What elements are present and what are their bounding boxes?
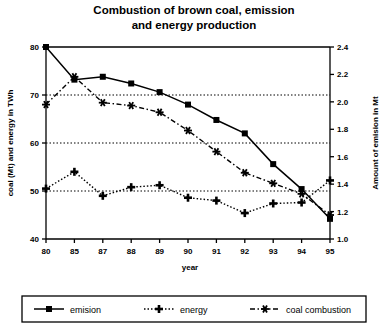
y-ticklabel-left-50: 50 — [30, 187, 39, 196]
y-ticklabel-right-1.6: 1.6 — [337, 153, 349, 162]
datapoint-0-3-square — [128, 80, 134, 86]
legend-marker-0 — [46, 306, 52, 312]
legend-marker-0-square — [46, 306, 52, 312]
legend-marker-1-v — [158, 305, 161, 313]
y-ticklabel-right-1.2: 1.2 — [337, 208, 349, 217]
datapoint-1-1 — [70, 168, 78, 176]
datapoint-1-5 — [184, 194, 192, 202]
y-ticklabel-right-2.2: 2.2 — [337, 70, 349, 79]
datapoint-0-4 — [157, 89, 163, 95]
datapoint-2-2 — [99, 99, 107, 107]
x-axis-label: year — [182, 263, 198, 272]
x-ticklabel-87: 87 — [98, 247, 107, 256]
y-ticklabel-left-70: 70 — [30, 91, 39, 100]
datapoint-1-4-v — [158, 181, 161, 189]
datapoint-0-5 — [185, 102, 191, 108]
chart-title-line1: Combustion of brown coal, emission — [93, 4, 294, 16]
datapoint-0-7-square — [242, 130, 248, 136]
datapoint-2-3 — [127, 102, 135, 110]
chart-container: Combustion of brown coal, emissionand en… — [0, 0, 388, 333]
legend-label-0: emision — [70, 305, 101, 315]
datapoint-1-9-v — [300, 199, 303, 207]
x-ticklabel-94: 94 — [297, 247, 306, 256]
combustion-line-chart: Combustion of brown coal, emissionand en… — [0, 0, 388, 333]
y-axis-label-left: coal (Mt) and energy in TWh — [6, 90, 15, 197]
datapoint-2-7 — [241, 169, 249, 177]
x-ticklabel-88: 88 — [127, 247, 136, 256]
y-ticklabel-left-40: 40 — [30, 235, 39, 244]
datapoint-1-0-v — [45, 185, 48, 193]
datapoint-0-4-square — [157, 89, 163, 95]
datapoint-0-0-square — [43, 44, 49, 50]
y-ticklabel-right-1.0: 1.0 — [337, 235, 349, 244]
datapoint-0-3 — [128, 80, 134, 86]
datapoint-1-5-v — [187, 194, 190, 202]
datapoint-1-2-v — [102, 192, 105, 200]
x-ticklabel-91: 91 — [212, 247, 221, 256]
x-ticklabel-80: 80 — [42, 247, 51, 256]
datapoint-0-2-square — [100, 74, 106, 80]
series-line-1 — [46, 172, 330, 213]
datapoint-1-6 — [212, 197, 220, 205]
datapoint-1-2 — [99, 192, 107, 200]
datapoint-0-6-square — [213, 117, 219, 123]
x-ticklabel-89: 89 — [155, 247, 164, 256]
legend-label-2: coal combustion — [286, 305, 351, 315]
datapoint-0-8-square — [270, 161, 276, 167]
x-ticklabel-90: 90 — [184, 247, 193, 256]
datapoint-1-8 — [269, 199, 277, 207]
datapoint-1-8-v — [272, 199, 275, 207]
y-ticklabel-right-2.0: 2.0 — [337, 98, 349, 107]
datapoint-0-7 — [242, 130, 248, 136]
datapoint-1-6-v — [215, 197, 218, 205]
datapoint-1-3 — [127, 183, 135, 191]
datapoint-2-4 — [156, 108, 164, 116]
y-ticklabel-right-2.4: 2.4 — [337, 43, 349, 52]
datapoint-1-4 — [156, 181, 164, 189]
y-ticklabel-left-80: 80 — [30, 43, 39, 52]
chart-title-line2: and energy production — [132, 19, 257, 31]
series-line-0 — [46, 47, 330, 219]
x-ticklabel-93: 93 — [269, 247, 278, 256]
y-axis-label-right: Amount of emision in Mt — [371, 96, 380, 190]
datapoint-1-3-v — [130, 183, 133, 191]
y-ticklabel-left-60: 60 — [30, 139, 39, 148]
datapoint-0-8 — [270, 161, 276, 167]
datapoint-0-0 — [43, 44, 49, 50]
y-ticklabel-right-1.4: 1.4 — [337, 180, 349, 189]
x-ticklabel-85: 85 — [70, 247, 79, 256]
datapoint-0-6 — [213, 117, 219, 123]
datapoint-2-8 — [269, 179, 277, 187]
series-energy — [42, 168, 334, 217]
x-ticklabel-92: 92 — [240, 247, 249, 256]
x-ticklabel-95: 95 — [326, 247, 335, 256]
y-ticklabel-right-1.8: 1.8 — [337, 125, 349, 134]
legend-label-1: energy — [180, 305, 208, 315]
datapoint-0-2 — [100, 74, 106, 80]
datapoint-1-7 — [241, 209, 249, 217]
datapoint-1-10-v — [329, 176, 332, 184]
datapoint-1-7-v — [244, 209, 247, 217]
datapoint-0-5-square — [185, 102, 191, 108]
datapoint-1-1-v — [73, 168, 76, 176]
